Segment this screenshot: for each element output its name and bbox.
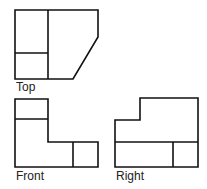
- front-view: [15, 99, 98, 167]
- top-view-label: Top: [16, 81, 35, 93]
- right-view: [115, 98, 198, 167]
- front-view-label: Front: [16, 170, 44, 182]
- right-view-label: Right: [116, 170, 144, 182]
- top-view-outline: [15, 10, 98, 79]
- top-view: [15, 10, 98, 79]
- orthographic-diagram: [0, 0, 207, 189]
- right-view-outline: [115, 98, 198, 167]
- front-view-outline: [15, 99, 98, 167]
